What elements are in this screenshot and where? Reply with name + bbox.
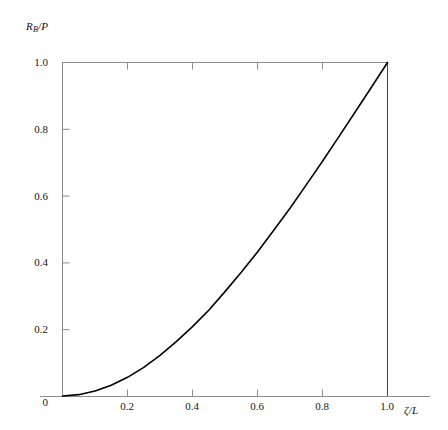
x-tick-label-0.2: 0.2 [107,400,147,412]
x-tick-label-1.0: 1.0 [367,400,407,412]
data-curve [63,63,388,397]
y-tick-label-origin: 0 [8,396,48,408]
top-frame-tick-marks [128,63,323,70]
chart-figure: RB/P ζ/L 1.0 0.8 0.6 0.4 0.2 0 0.2 0.4 0… [0,0,448,430]
x-tick-label-0.6: 0.6 [237,400,277,412]
y-axis-label-main: R [26,20,33,32]
plot-canvas [0,0,448,430]
y-tick-label-1.0: 1.0 [8,56,48,68]
y-tick-label-0.4: 0.4 [8,256,48,268]
x-tick-label-0.4: 0.4 [172,400,212,412]
y-axis-label-tail: /P [38,20,48,32]
y-tick-marks [63,63,70,330]
y-tick-label-0.2: 0.2 [8,323,48,335]
x-tick-label-0.8: 0.8 [302,400,342,412]
y-tick-label-0.8: 0.8 [8,123,48,135]
x-tick-marks [128,390,388,397]
y-tick-label-0.6: 0.6 [8,190,48,202]
y-axis-label: RB/P [26,20,48,34]
